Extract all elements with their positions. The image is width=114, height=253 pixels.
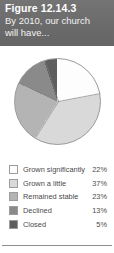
pie-chart-area (0, 46, 114, 161)
legend-item-value: 23% (90, 192, 107, 201)
figure-card: Figure 12.14.3 By 2010, our church will … (0, 0, 114, 253)
legend-swatch-icon (9, 192, 18, 201)
page-title: Figure 12.14.3 (5, 2, 109, 15)
legend-item-value: 13% (90, 206, 107, 215)
legend-item-label: Grown a little (23, 179, 90, 188)
figure-subtitle-line-2: will have... (5, 27, 109, 39)
pie-slice-divider (35, 101, 59, 137)
figure-header: Figure 12.14.3 By 2010, our church will … (0, 0, 114, 46)
legend-item-grown-a-little: Grown a little 37% (9, 177, 107, 191)
chart-legend: Grown significantly 22% Grown a little 3… (0, 163, 114, 231)
footer-divider (2, 245, 112, 246)
figure-subtitle-line-1: By 2010, our church (5, 15, 109, 27)
legend-swatch-icon (9, 206, 18, 215)
legend-item-label: Closed (23, 220, 90, 229)
pie-chart (14, 58, 101, 145)
legend-item-value: 5% (90, 220, 107, 229)
legend-item-remained-stable: Remained stable 23% (9, 190, 107, 204)
legend-item-label: Grown significantly (23, 165, 90, 174)
legend-swatch-icon (9, 179, 18, 188)
legend-item-label: Declined (23, 206, 90, 215)
legend-item-label: Remained stable (23, 192, 90, 201)
legend-item-value: 22% (90, 165, 107, 174)
legend-item-value: 37% (90, 179, 107, 188)
legend-swatch-icon (9, 165, 18, 174)
legend-swatch-icon (9, 220, 18, 229)
legend-item-declined: Declined 13% (9, 204, 107, 218)
legend-item-closed: Closed 5% (9, 217, 107, 231)
legend-item-grown-significantly: Grown significantly 22% (9, 163, 107, 177)
pie-slice-divider (58, 93, 100, 102)
